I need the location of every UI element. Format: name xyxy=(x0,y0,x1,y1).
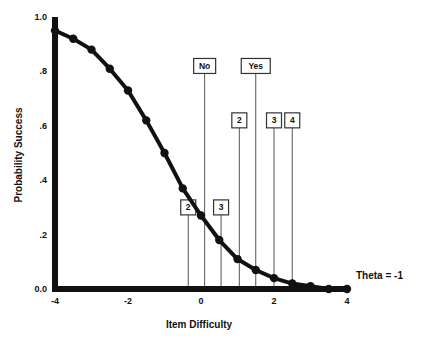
difficulty-marker: 4 xyxy=(285,113,300,289)
marker-label: 4 xyxy=(290,115,295,125)
data-point xyxy=(215,236,223,244)
difficulty-marker: 3 xyxy=(267,113,282,289)
y-tick-label: 1.0 xyxy=(34,12,47,22)
x-tick-label: -4 xyxy=(51,296,59,306)
difficulty-markers: NoYes23423 xyxy=(181,58,300,289)
difficulty-marker: Yes xyxy=(241,58,270,289)
tick-labels: 1.0.8.6.4.20.0-4-2024 xyxy=(34,12,349,306)
x-axis-title: Item Difficulty xyxy=(166,319,233,330)
data-point xyxy=(179,184,187,192)
theta-label: Theta = -1 xyxy=(356,270,403,281)
difficulty-marker: No xyxy=(194,58,216,289)
y-tick-label: .6 xyxy=(39,121,47,131)
difficulty-marker: 2 xyxy=(181,200,196,289)
y-tick-label: .2 xyxy=(39,230,47,240)
x-tick-label: 0 xyxy=(198,296,203,306)
data-point xyxy=(160,149,168,157)
data-point xyxy=(87,45,95,53)
y-tick-label: .8 xyxy=(39,66,47,76)
x-tick-label: 2 xyxy=(271,296,276,306)
marker-label: 2 xyxy=(186,202,191,212)
data-point xyxy=(197,211,205,219)
marker-label: 3 xyxy=(219,202,224,212)
x-tick-label: 4 xyxy=(344,296,349,306)
x-tick-label: -2 xyxy=(124,296,132,306)
y-tick-label: .4 xyxy=(39,175,47,185)
marker-label: No xyxy=(199,61,210,71)
data-point xyxy=(233,255,241,263)
data-point xyxy=(106,64,114,72)
marker-label: 2 xyxy=(237,115,242,125)
data-point xyxy=(142,116,150,124)
marker-label: Yes xyxy=(248,61,263,71)
data-point xyxy=(69,35,77,43)
data-point xyxy=(270,274,278,282)
y-axis-title: Probability Success xyxy=(13,107,24,202)
data-point xyxy=(124,86,132,94)
data-point xyxy=(252,266,260,274)
item-characteristic-chart: NoYes23423 1.0.8.6.4.20.0-4-2024 Item Di… xyxy=(0,0,421,343)
y-tick-label: 0.0 xyxy=(34,284,47,294)
marker-label: 3 xyxy=(272,115,277,125)
